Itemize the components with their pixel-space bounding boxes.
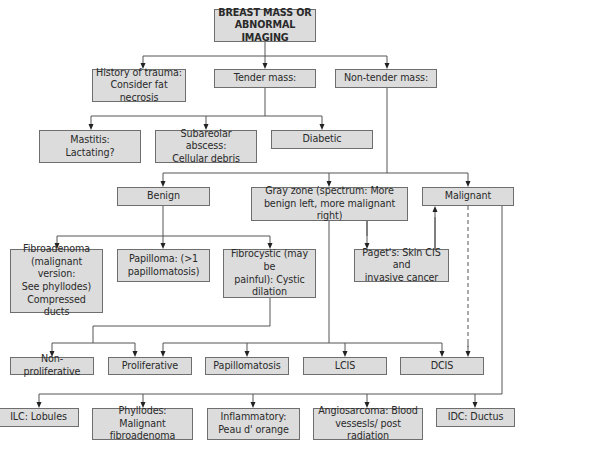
node-label: Phyllodes: Malignant fibroadenoma bbox=[96, 405, 189, 443]
edge-benign bbox=[57, 206, 270, 236]
node-nonprolif: Non-proliferative bbox=[10, 357, 94, 375]
node-label: Paget's: Skin CIS and invasive cancer bbox=[358, 247, 445, 285]
node-diabetic: Diabetic bbox=[271, 130, 373, 149]
node-label: DCIS bbox=[431, 360, 454, 373]
node-idc: IDC: Ductus bbox=[436, 408, 515, 427]
node-label: LCIS bbox=[335, 360, 356, 373]
node-trauma: History of trauma: Consider fat necrosis bbox=[92, 69, 186, 102]
node-dcis: DCIS bbox=[400, 357, 484, 375]
node-label: Papillomatosis bbox=[213, 360, 280, 373]
node-phyllodes: Phyllodes: Malignant fibroadenoma bbox=[92, 408, 193, 440]
node-label: Mastitis: Lactating? bbox=[66, 134, 115, 159]
node-label: Fibrocystic (may be painful): Cystic dil… bbox=[227, 248, 312, 298]
node-fibroadenoma: Fibroadenoma (malignant version: See phy… bbox=[10, 249, 103, 313]
node-label: Benign bbox=[147, 190, 180, 203]
node-nontender: Non-tender mass: bbox=[335, 69, 437, 88]
node-label: Non-tender mass: bbox=[344, 72, 428, 85]
node-grayzone: Gray zone (spectrum: More benign left, m… bbox=[251, 187, 408, 221]
node-ilc: ILC: Lobules bbox=[0, 408, 79, 427]
node-label: Tender mass: bbox=[234, 72, 296, 85]
node-angiosarcoma: Angiosarcoma: Blood vessesls/ post radia… bbox=[313, 408, 423, 440]
node-label: IDC: Ductus bbox=[448, 411, 504, 424]
node-label: Proliferative bbox=[122, 360, 178, 373]
node-inflammatory: Inflammatory: Peau d' orange bbox=[207, 408, 300, 440]
node-label: Papilloma: (>1 papillomatosis) bbox=[128, 253, 200, 278]
node-label: Inflammatory: Peau d' orange bbox=[218, 411, 289, 436]
node-label: Gray zone (spectrum: More benign left, m… bbox=[255, 185, 404, 223]
node-label: Non-proliferative bbox=[14, 353, 90, 378]
node-mastitis: Mastitis: Lactating? bbox=[39, 130, 141, 163]
node-label: Subareolar abscess: Cellular debris bbox=[159, 128, 253, 166]
arrowhead-icon bbox=[433, 206, 438, 212]
node-label: Diabetic bbox=[303, 133, 342, 146]
node-label: Fibroadenoma (malignant version: See phy… bbox=[14, 243, 99, 319]
node-lcis: LCIS bbox=[303, 357, 387, 375]
node-tender: Tender mass: bbox=[214, 69, 316, 88]
node-label: Angiosarcoma: Blood vessesls/ post radia… bbox=[317, 405, 419, 443]
node-label: BREAST MASS OR ABNORMAL IMAGING bbox=[218, 7, 312, 45]
node-root: BREAST MASS OR ABNORMAL IMAGING bbox=[214, 9, 316, 42]
node-pagets: Paget's: Skin CIS and invasive cancer bbox=[354, 249, 449, 282]
node-prolif: Proliferative bbox=[108, 357, 192, 375]
node-label: History of trauma: Consider fat necrosis bbox=[96, 67, 182, 105]
node-label: Malignant bbox=[445, 190, 491, 203]
node-papillomatosis: Papillomatosis bbox=[205, 357, 289, 375]
node-label: ILC: Lobules bbox=[10, 411, 67, 424]
node-benign: Benign bbox=[117, 187, 210, 206]
node-malignant: Malignant bbox=[422, 187, 514, 206]
flowchart-canvas: BREAST MASS OR ABNORMAL IMAGINGHistory o… bbox=[0, 0, 614, 461]
node-subareolar: Subareolar abscess: Cellular debris bbox=[155, 130, 257, 163]
node-papilloma: Papilloma: (>1 papillomatosis) bbox=[117, 249, 210, 282]
node-fibrocystic: Fibrocystic (may be painful): Cystic dil… bbox=[223, 249, 316, 298]
